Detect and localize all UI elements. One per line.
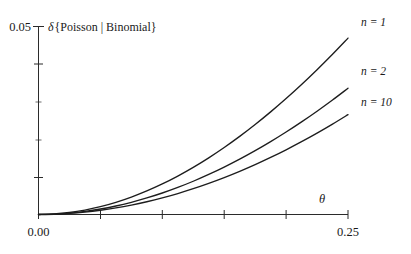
plot-title-body: {Poisson | Binomial} [55, 20, 157, 34]
y-max-tick-label: 0.05 [9, 20, 31, 34]
x-min-tick-label: 0.00 [28, 225, 50, 239]
plot-title-delta: δ [48, 20, 54, 34]
legend-item-n-2: n = 2 [361, 65, 386, 77]
x-axis-title: θ [319, 192, 325, 206]
x-max-tick-label: 0.25 [337, 225, 359, 239]
plot-title: δ{Poisson | Binomial} [48, 20, 157, 34]
chart-figure: 0.05 0.00 0.25 δ{Poisson | Binomial} θ n… [0, 0, 411, 254]
chart-background [0, 0, 411, 254]
chart-svg: 0.05 0.00 0.25 δ{Poisson | Binomial} θ n… [0, 0, 411, 254]
legend-item-n-1: n = 1 [361, 16, 386, 28]
legend-item-n-10: n = 10 [361, 96, 392, 108]
